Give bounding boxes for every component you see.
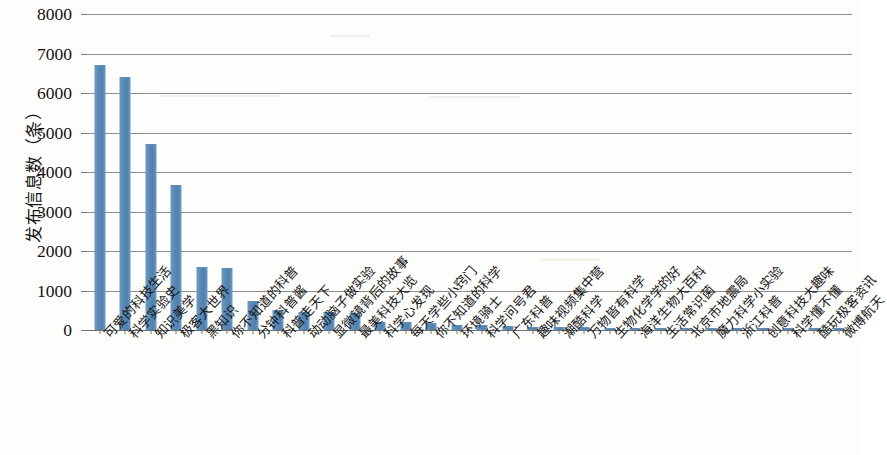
y-tick-label: 1000	[37, 280, 72, 301]
bar-slot	[597, 14, 623, 330]
y-tick-label: 2000	[37, 241, 72, 262]
bar-slot	[827, 14, 853, 330]
y-tick-label: 7000	[37, 43, 72, 64]
y-tick-label: 5000	[37, 122, 72, 143]
y-tick-label: 0	[63, 320, 72, 341]
bar-slot	[699, 14, 725, 330]
bar-slot	[215, 14, 241, 330]
bar-slot	[189, 14, 215, 330]
bar[interactable]	[120, 77, 131, 330]
y-tick-label: 3000	[37, 201, 72, 222]
x-axis-category-labels: 可爱的科技生活科学实验史知识美学极客大世界黑知识你不知道的科普分钟科普酱科普走天…	[87, 332, 852, 455]
bar-slot	[164, 14, 190, 330]
bar-slot	[419, 14, 445, 330]
bar-slot	[87, 14, 113, 330]
bar-slot	[495, 14, 521, 330]
bar[interactable]	[94, 65, 105, 330]
y-tick-label: 8000	[37, 4, 72, 25]
bar-slot	[317, 14, 343, 330]
y-axis-tick-labels: 010002000300040005000600070008000	[0, 14, 72, 330]
y-tick-label: 4000	[37, 162, 72, 183]
bar-slot	[113, 14, 139, 330]
bar-slot	[546, 14, 572, 330]
bar-slot	[776, 14, 802, 330]
bar-slot	[240, 14, 266, 330]
y-tick-label: 6000	[37, 83, 72, 104]
bar-slot	[291, 14, 317, 330]
bar-slot	[521, 14, 547, 330]
